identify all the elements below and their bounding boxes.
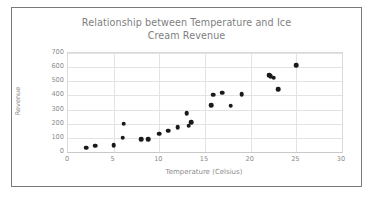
x-axis-tick-labels: 051015202530 xyxy=(67,155,341,167)
scatter-point xyxy=(93,143,98,148)
scatter-point xyxy=(239,92,244,97)
scatter-point xyxy=(294,63,299,68)
y-tick-label: 500 xyxy=(38,76,64,84)
x-axis-line xyxy=(68,152,342,153)
x-tick-label: 0 xyxy=(65,155,69,163)
y-tick-label: 400 xyxy=(38,90,64,98)
y-tick-label: 200 xyxy=(38,119,64,127)
scatter-point xyxy=(166,128,171,133)
x-tick-label: 10 xyxy=(154,155,162,163)
scatter-point xyxy=(111,143,116,148)
scatter-point xyxy=(228,103,233,108)
y-tick-label: 700 xyxy=(38,48,64,56)
x-tick-label: 20 xyxy=(245,155,253,163)
plot-area xyxy=(67,52,343,153)
chart-title-line-2: Cream Revenue xyxy=(12,30,361,43)
scatter-point xyxy=(189,120,194,125)
scatter-point xyxy=(276,87,281,92)
y-tick-label: 100 xyxy=(38,133,64,141)
scatter-point xyxy=(157,131,162,136)
x-tick-label: 5 xyxy=(111,155,115,163)
y-tick-label: 600 xyxy=(38,62,64,70)
scatter-point xyxy=(121,121,126,126)
chart-title: Relationship between Temperature and Ice… xyxy=(12,17,361,42)
y-axis-tick-labels: 0100200300400500600700 xyxy=(36,52,64,151)
scatter-point xyxy=(211,92,216,97)
scatter-point xyxy=(84,145,89,150)
chart-title-line-1: Relationship between Temperature and Ice xyxy=(12,17,361,30)
scatter-point xyxy=(184,111,189,116)
x-tick-label: 15 xyxy=(200,155,208,163)
x-tick-label: 30 xyxy=(337,155,345,163)
chart-frame: Relationship between Temperature and Ice… xyxy=(11,7,362,187)
gridline-vertical xyxy=(114,53,115,152)
scatter-point xyxy=(220,90,225,95)
gridline-vertical xyxy=(205,53,206,152)
x-tick-label: 25 xyxy=(291,155,299,163)
y-axis-title: Revenue xyxy=(14,87,22,116)
gridline-vertical xyxy=(159,53,160,152)
gridline-vertical xyxy=(251,53,252,152)
y-tick-label: 0 xyxy=(38,147,64,155)
scatter-point xyxy=(209,103,214,108)
gridline-vertical xyxy=(296,53,297,152)
scatter-point xyxy=(139,137,144,142)
y-tick-label: 300 xyxy=(38,105,64,113)
scatter-point xyxy=(271,75,276,80)
x-axis-title: Temperature (Celsius) xyxy=(67,168,341,176)
scatter-point xyxy=(121,136,126,141)
scatter-point xyxy=(175,125,180,130)
scatter-point xyxy=(146,137,151,142)
